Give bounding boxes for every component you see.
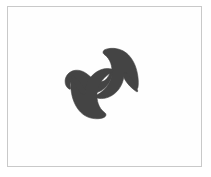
shape-canvas: [8, 7, 201, 166]
figure-frame: [7, 6, 202, 167]
double-hook-shape: [65, 48, 138, 118]
figure-container: Abstract S-shaped double-hook glyph: [0, 0, 211, 177]
